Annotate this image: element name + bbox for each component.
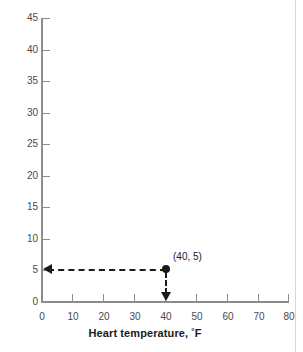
x-axis-tick-label-wrap: 10: [58, 306, 88, 324]
y-axis-tick-label-wrap: 30: [0, 108, 38, 118]
y-axis-tick-label: 25: [2, 139, 38, 149]
y-axis-tick-label: 40: [2, 45, 38, 55]
x-axis-line: [41, 301, 289, 303]
x-axis-tick: [196, 294, 197, 301]
x-axis-tick-label-wrap: 60: [213, 306, 243, 324]
y-axis-tick-label: 35: [2, 76, 38, 86]
y-axis-tick-label-wrap: 45: [0, 13, 38, 23]
page-edge-rule: [295, 0, 296, 352]
y-axis-tick-label: 45: [2, 13, 38, 23]
x-axis-tick: [72, 294, 73, 301]
y-axis-tick-label: 15: [2, 202, 38, 212]
data-point-label: (40, 5): [173, 251, 202, 262]
y-axis-tick-label: 10: [2, 234, 38, 244]
x-axis-tick-label-wrap: 70: [244, 306, 274, 324]
x-axis-tick-label-wrap: 40: [151, 306, 181, 324]
x-axis-tick-label: 10: [67, 311, 78, 322]
x-axis-tick-label: 80: [283, 311, 294, 322]
x-axis-title: Heart temperature, °F: [0, 327, 290, 339]
y-axis-tick: [43, 113, 50, 114]
y-axis-tick-label: 5: [2, 265, 38, 275]
x-axis-tick-label: 30: [129, 311, 140, 322]
y-axis-tick: [43, 207, 50, 208]
x-axis-title-text: Heart temperature,: [89, 327, 192, 339]
y-axis-tick-label-wrap: 20: [0, 171, 38, 181]
x-axis-tick-label: 50: [191, 311, 202, 322]
x-axis-unit-letter: F: [195, 327, 202, 339]
y-axis-tick: [43, 239, 50, 240]
data-point-marker: [162, 265, 170, 273]
x-axis-tick-label-wrap: 30: [120, 306, 150, 324]
y-axis-tick-label-wrap: 10: [0, 234, 38, 244]
x-axis-tick-label-wrap: 50: [182, 306, 212, 324]
x-axis-tick: [288, 294, 289, 301]
y-axis-tick-label-wrap: 15: [0, 202, 38, 212]
vertical-leader-line: [165, 272, 167, 294]
x-axis-tick-label-wrap: 0: [27, 306, 57, 324]
y-axis-tick: [43, 81, 50, 82]
y-axis-tick-label-wrap: 25: [0, 139, 38, 149]
y-axis-tick-label-wrap: 35: [0, 76, 38, 86]
x-axis-tick: [227, 294, 228, 301]
y-axis-tick-label-wrap: 40: [0, 45, 38, 55]
x-axis-tick-label-wrap: 20: [89, 306, 119, 324]
x-axis-tick: [103, 294, 104, 301]
x-axis-tick-label-wrap: 80: [274, 306, 303, 324]
down-arrowhead-icon: [161, 292, 171, 301]
x-axis-tick-label: 70: [253, 311, 264, 322]
x-axis-tick-label: 0: [39, 311, 45, 322]
x-axis-tick: [134, 294, 135, 301]
y-axis-tick: [43, 50, 50, 51]
x-axis-tick-label: 60: [222, 311, 233, 322]
y-axis-tick: [43, 144, 50, 145]
y-axis-line: [41, 18, 43, 303]
left-arrowhead-icon: [43, 264, 52, 274]
x-axis-tick-label: 40: [160, 311, 171, 322]
y-axis-tick: [43, 18, 50, 19]
y-axis-tick-label: 20: [2, 171, 38, 181]
y-axis-tick-label-wrap: 5: [0, 265, 38, 275]
x-axis-tick: [258, 294, 259, 301]
x-axis-tick: [41, 294, 42, 301]
y-axis-tick: [43, 176, 50, 177]
horizontal-leader-line: [48, 269, 166, 271]
y-axis-tick-label: 30: [2, 108, 38, 118]
x-axis-tick-label: 20: [98, 311, 109, 322]
chart-figure: 45 40 35 30 25 20 15 10 5 0 0 10: [0, 0, 303, 352]
